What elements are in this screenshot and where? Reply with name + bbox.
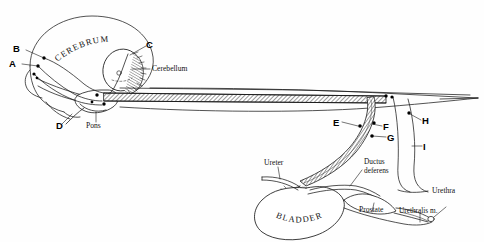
dot-pons-3 [91,101,94,104]
point-label-a: A [9,58,16,69]
bladder-outline [255,187,345,240]
leader-e [342,122,358,126]
label-pons: Pons [86,121,101,130]
label-ductus-deferens-line2: deferens [364,166,389,175]
urethra-lumen-opening [428,216,434,221]
label-urethralis-muscle: Urethralis m. [399,206,438,215]
label-cerebellum: Cerebellum [152,64,187,73]
dot-b [42,56,45,59]
dot-pons-2 [102,102,105,105]
dot-e [358,124,362,128]
point-label-d: D [56,120,63,131]
point-label-g: G [387,132,394,143]
dot-cord-end-1 [384,94,387,97]
ureter-tube-upper [262,177,300,187]
leader-c [130,46,146,55]
hypogastric-nerve-left [393,97,410,192]
point-label-e: E [333,117,339,128]
pathway-line-d [66,108,84,124]
dot-h [407,111,410,114]
point-label-b: B [13,43,20,54]
dot-a2 [32,72,35,75]
label-urethra: Urethra [432,186,455,195]
leader-g [372,136,386,137]
label-prostate: Prostate [359,205,383,214]
point-label-h: H [422,115,429,126]
anatomical-figure: CEREBRUM BLADDER B A C D E F G H I Cereb… [0,0,484,242]
point-label-i: I [423,141,426,152]
dot-a3 [36,77,39,80]
dot-pons-1 [95,93,98,96]
label-ureter: Ureter [264,158,283,167]
point-label-f: F [383,121,389,132]
dot-cord-end-2 [390,95,393,98]
pathway-line-b [44,58,104,93]
dot-a [36,64,39,67]
label-ductus-deferens-line1: Ductus [364,157,385,166]
leader-ductus [350,170,362,186]
cerebrum-curved-label: CEREBRUM [53,34,110,64]
dot-g [370,134,374,138]
leader-ureter [278,167,280,179]
point-label-c: C [146,39,153,50]
dot-f [372,121,375,124]
leader-b [26,50,44,58]
